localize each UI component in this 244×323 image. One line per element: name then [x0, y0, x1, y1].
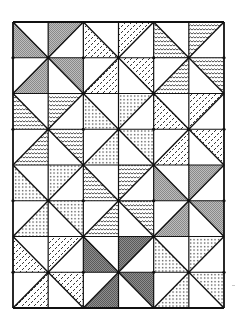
- scan-speck: [232, 285, 235, 286]
- vertex-dot: [117, 271, 120, 274]
- vertex-dot: [47, 199, 50, 202]
- vertex-dot: [222, 199, 225, 202]
- vertex-dot: [82, 271, 85, 274]
- vertex-dot: [47, 128, 50, 131]
- vertex-dot: [82, 199, 85, 202]
- vertex-dot: [11, 56, 14, 59]
- vertex-dot: [82, 128, 85, 131]
- vertex-dot: [117, 199, 120, 202]
- vertex-dot: [11, 271, 14, 274]
- vertex-dot: [187, 128, 190, 131]
- vertex-dot: [222, 56, 225, 59]
- vertex-dot: [152, 56, 155, 59]
- vertex-dot: [47, 56, 50, 59]
- vertex-dot: [152, 128, 155, 131]
- vertex-dot: [152, 199, 155, 202]
- vertex-dot: [117, 56, 120, 59]
- vertex-dot: [152, 271, 155, 274]
- vertex-dot: [82, 56, 85, 59]
- vertex-dot: [117, 128, 120, 131]
- vertex-dot: [11, 128, 14, 131]
- vertex-dot: [187, 271, 190, 274]
- vertex-dot: [222, 271, 225, 274]
- vertex-dot: [222, 128, 225, 131]
- vertex-dot: [187, 199, 190, 202]
- vertex-dot: [47, 271, 50, 274]
- vertex-dot: [187, 56, 190, 59]
- quilt-diagram: [0, 0, 244, 323]
- vertex-dot: [11, 199, 14, 202]
